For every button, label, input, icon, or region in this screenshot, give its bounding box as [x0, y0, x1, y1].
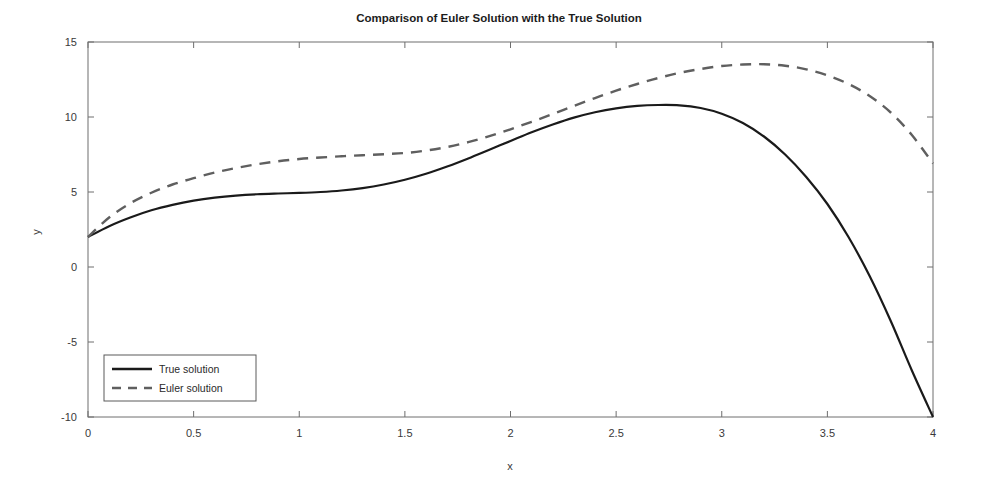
- x-axis-label: x: [507, 460, 513, 472]
- x-tick-label: 0.5: [186, 427, 201, 439]
- y-tick-label: -10: [61, 411, 77, 423]
- y-tick-label: -5: [67, 336, 77, 348]
- legend-label-true-solution: True solution: [159, 363, 219, 375]
- x-tick-label: 3.5: [820, 427, 835, 439]
- series-line-euler-solution: [88, 64, 933, 237]
- x-tick-label: 4: [930, 427, 936, 439]
- chart-figure: Comparison of Euler Solution with the Tr…: [0, 0, 998, 488]
- y-axis-label: y: [30, 229, 42, 235]
- x-tick-label: 2.5: [608, 427, 623, 439]
- chart-title: Comparison of Euler Solution with the Tr…: [356, 12, 642, 24]
- y-tick-label: 0: [71, 261, 77, 273]
- y-tick-label: 15: [65, 36, 77, 48]
- y-tick-label: 10: [65, 111, 77, 123]
- legend-label-euler-solution: Euler solution: [159, 382, 223, 394]
- x-tick-label: 1: [296, 427, 302, 439]
- x-tick-label: 0: [85, 427, 91, 439]
- x-tick-label: 1.5: [397, 427, 412, 439]
- legend-box: [104, 355, 256, 401]
- x-tick-label: 3: [719, 427, 725, 439]
- y-tick-label: 5: [71, 186, 77, 198]
- legend: True solution Euler solution: [104, 355, 256, 401]
- line-chart: Comparison of Euler Solution with the Tr…: [0, 0, 998, 488]
- x-tick-label: 2: [507, 427, 513, 439]
